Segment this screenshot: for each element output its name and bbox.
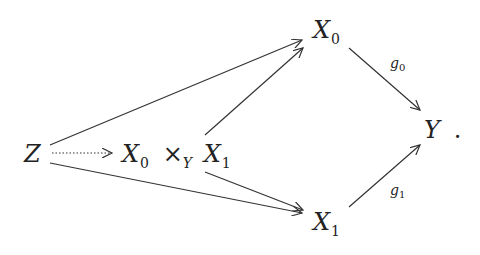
- arrow-z-to-x1: [50, 163, 302, 213]
- node-x0-subscript: 0: [331, 31, 340, 47]
- g1-base: g: [390, 182, 399, 198]
- pullback-diagram: Z X0 ×Y X1 X0 X1 Y. g0 g1: [0, 0, 480, 255]
- arrows-layer: [0, 0, 480, 255]
- edge-label-g0: g0: [390, 56, 405, 70]
- fiber-product-symbol: ×: [163, 140, 183, 168]
- g0-subscript: 0: [399, 62, 405, 73]
- arrow-x1-to-y: [349, 145, 420, 207]
- node-x0-base: X: [313, 16, 330, 44]
- node-z: Z: [24, 142, 41, 166]
- arrow-product-to-x0: [205, 48, 303, 135]
- pullback-x0-subscript: 0: [140, 155, 149, 171]
- node-pullback: X0 ×Y X1: [122, 142, 231, 166]
- g1-subscript: 1: [399, 189, 405, 200]
- g0-base: g: [390, 55, 399, 71]
- node-x1-base: X: [313, 208, 330, 236]
- pullback-x1: X: [204, 140, 221, 168]
- period: .: [454, 116, 462, 144]
- node-y: Y.: [424, 118, 461, 142]
- node-z-label: Z: [24, 140, 41, 168]
- arrow-z-to-x0: [50, 40, 302, 145]
- arrow-product-to-x1: [205, 172, 303, 210]
- fiber-product-subscript: Y: [183, 155, 192, 171]
- pullback-x1-subscript: 1: [222, 155, 231, 171]
- node-x1-subscript: 1: [331, 223, 340, 239]
- arrow-x0-to-y: [349, 48, 420, 110]
- pullback-x0: X: [122, 140, 139, 168]
- node-y-label: Y: [424, 116, 440, 144]
- edge-label-g1: g1: [390, 183, 405, 197]
- node-x0: X0: [313, 18, 340, 42]
- node-x1: X1: [313, 210, 340, 234]
